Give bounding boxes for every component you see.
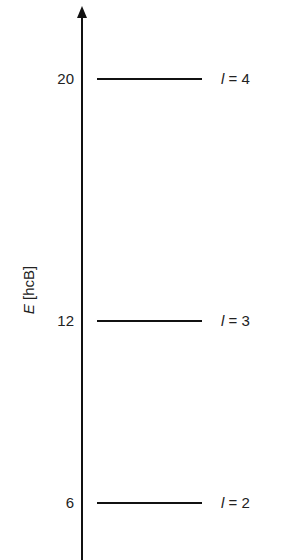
level-label-l3: l = 3 — [221, 312, 250, 329]
tick-label-12: 12 — [34, 312, 74, 329]
y-axis-label: E [hcB] — [20, 266, 37, 314]
energy-level-l2 — [97, 502, 202, 504]
energy-level-l3 — [97, 320, 202, 322]
level-label-l4: l = 4 — [221, 70, 250, 87]
energy-axis — [81, 14, 83, 560]
level-label-l2: l = 2 — [221, 494, 250, 511]
tick-label-6: 6 — [34, 494, 74, 511]
tick-label-20: 20 — [34, 70, 74, 87]
energy-level-l4 — [97, 78, 202, 80]
y-axis-unit: [hcB] — [20, 266, 37, 300]
